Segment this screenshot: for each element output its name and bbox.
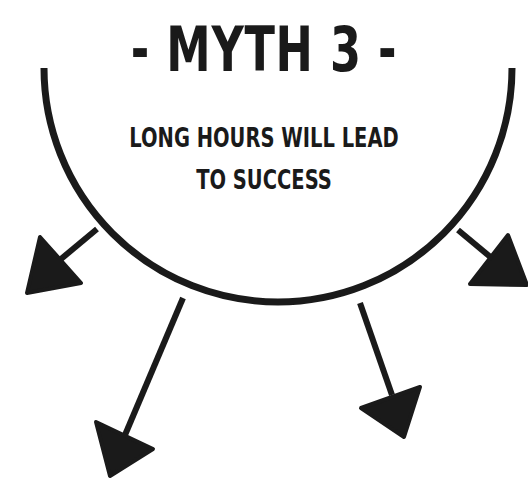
- arrow-upper-left: [27, 229, 97, 293]
- arrow-lower-left: [96, 298, 183, 476]
- arrow-lower-right: [360, 303, 420, 437]
- subtitle-line-2: TO SUCCESS: [66, 159, 462, 201]
- myth-title: - MYTH 3 -: [74, 10, 454, 90]
- arrow-upper-right: [458, 230, 527, 285]
- subtitle-line-1: LONG HOURS WILL LEAD: [66, 117, 462, 159]
